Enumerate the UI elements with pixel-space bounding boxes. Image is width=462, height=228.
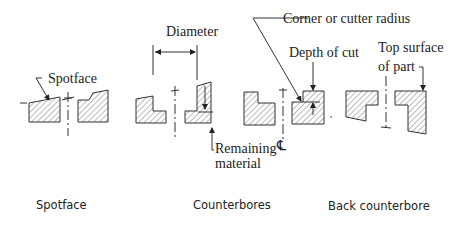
arrowhead bbox=[155, 49, 161, 55]
spotface-figure: Spotface bbox=[20, 71, 108, 136]
caption-back-counterbore: Back counterbore bbox=[328, 199, 430, 213]
counterbore-centerline-tick bbox=[171, 90, 179, 91]
back-counterbore-right-part bbox=[395, 91, 426, 134]
spotface-right-part bbox=[78, 90, 108, 122]
remaining-material-label-1: Remaining bbox=[215, 141, 276, 156]
caption-spotface: Spotface bbox=[36, 198, 87, 212]
counterbore-right-part bbox=[185, 82, 211, 123]
counterbore-mid-left-part bbox=[244, 92, 275, 125]
counterbore-mid-right-part bbox=[292, 91, 324, 124]
machining-features-diagram: Spotface Diameter Remaining material ℄ bbox=[0, 0, 462, 228]
back-counterbore-left-part bbox=[346, 91, 378, 121]
top-surface-leader-arrow bbox=[419, 67, 423, 90]
counterbore-left-part bbox=[136, 96, 166, 123]
centerline-symbol: ℄ bbox=[276, 138, 286, 153]
spotface-label: Spotface bbox=[48, 71, 97, 86]
depth-of-cut-label: Depth of cut bbox=[289, 45, 359, 60]
caption-counterbores: Counterbores bbox=[193, 198, 271, 212]
remaining-material-label-2: material bbox=[215, 156, 261, 171]
corner-radius-label: Corner or cutter radius bbox=[283, 11, 410, 26]
spotface-left-part bbox=[29, 97, 60, 122]
back-counterbore-centerline-tick bbox=[381, 127, 391, 128]
diameter-label: Diameter bbox=[166, 24, 218, 39]
top-surface-label-1: Top surface bbox=[378, 40, 444, 55]
back-counterbore-figure: Top surface of part bbox=[346, 40, 444, 134]
dot bbox=[330, 116, 332, 118]
top-surface-label-2: of part bbox=[378, 59, 415, 74]
